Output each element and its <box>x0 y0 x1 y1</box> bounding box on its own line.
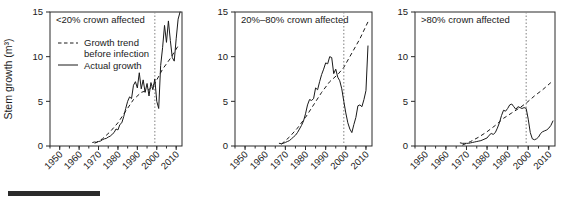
series-actual-growth <box>93 12 180 142</box>
x-tick-label: 1990 <box>308 149 331 172</box>
x-tick-label: 2000 <box>510 149 533 172</box>
y-tick-label: 10 <box>32 51 43 62</box>
x-tick-label: 2000 <box>328 149 351 172</box>
x-tick-label: 1960 <box>428 149 451 172</box>
legend-label-trend-line2: before infection <box>84 48 149 59</box>
x-tick-label: 1950 <box>227 149 250 172</box>
y-tick-label: 15 <box>217 6 228 17</box>
panel-title: >80% crown affected <box>421 14 510 25</box>
y-tick-label: 5 <box>38 96 43 107</box>
x-tick-label: 1960 <box>247 149 270 172</box>
x-tick-label: 1980 <box>288 149 311 172</box>
x-tick-label: 1950 <box>407 149 430 172</box>
y-tick-label: 15 <box>397 6 408 17</box>
series-actual-growth <box>279 46 368 144</box>
x-tick-label: 1980 <box>100 149 123 172</box>
y-tick-label: 15 <box>32 6 43 17</box>
panel-greater-than-80: 0510151950196019701980199020002010>80% c… <box>375 0 565 175</box>
x-tick-label: 2000 <box>139 149 162 172</box>
y-tick-label: 0 <box>223 140 228 151</box>
y-axis-label: Stem growth (m³) <box>2 38 14 119</box>
x-tick-label: 1960 <box>61 149 84 172</box>
x-tick-label: 1980 <box>469 149 492 172</box>
y-tick-label: 10 <box>397 51 408 62</box>
x-tick-label: 1950 <box>42 149 65 172</box>
y-tick-label: 0 <box>403 140 408 151</box>
panel-20-to-80: 051015195019601970198019902000201020%–80… <box>190 0 380 175</box>
x-tick-label: 1970 <box>268 149 291 172</box>
x-tick-label: 1970 <box>81 149 104 172</box>
plot-frame <box>235 12 372 146</box>
legend-label-actual: Actual growth <box>84 60 142 71</box>
plot-frame <box>50 12 182 146</box>
x-tick-label: 1990 <box>120 149 143 172</box>
y-tick-label: 5 <box>223 96 228 107</box>
series-growth-trend <box>281 22 368 144</box>
y-tick-label: 5 <box>403 96 408 107</box>
plot-frame <box>415 12 555 146</box>
series-growth-trend <box>462 83 551 146</box>
legend-label-trend: Growth trend <box>84 37 139 48</box>
x-tick-label: 2010 <box>348 149 371 172</box>
panel-title: 20%–80% crown affected <box>241 14 349 25</box>
series-actual-growth <box>460 104 553 143</box>
y-tick-label: 0 <box>38 140 43 151</box>
x-tick-label: 2010 <box>158 149 181 172</box>
x-tick-label: 1970 <box>449 149 472 172</box>
x-tick-label: 1990 <box>490 149 513 172</box>
panel-title: <20% crown affected <box>56 14 145 25</box>
panel-less-than-20: 0510151950196019701980199020002010<20% c… <box>0 0 190 175</box>
y-tick-label: 10 <box>217 51 228 62</box>
x-tick-label: 2010 <box>531 149 554 172</box>
scale-bar <box>8 191 100 196</box>
figure-panels: 0510151950196019701980199020002010<20% c… <box>0 0 565 203</box>
